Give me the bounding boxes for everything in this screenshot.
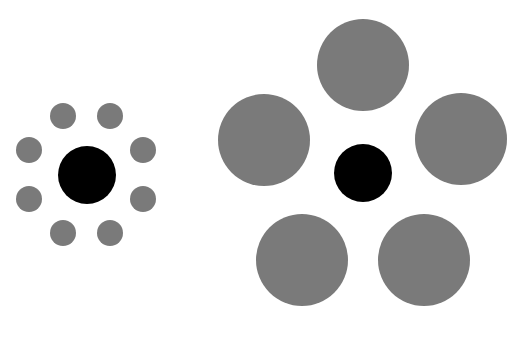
surround-circle — [16, 137, 42, 163]
center-circle — [58, 146, 116, 204]
surround-circle — [130, 137, 156, 163]
surround-circle — [378, 214, 470, 306]
surround-circle — [415, 93, 507, 185]
surround-circle — [256, 214, 348, 306]
surround-circle — [50, 220, 76, 246]
surround-circle — [97, 103, 123, 129]
ebbinghaus-illusion — [0, 0, 527, 345]
center-circle — [334, 144, 392, 202]
surround-circle — [50, 103, 76, 129]
surround-circle — [97, 220, 123, 246]
right-group-large-surround — [218, 19, 507, 306]
surround-circle — [130, 186, 156, 212]
surround-circle — [16, 186, 42, 212]
left-group-small-surround — [16, 103, 156, 246]
surround-circle — [218, 94, 310, 186]
surround-circle — [317, 19, 409, 111]
